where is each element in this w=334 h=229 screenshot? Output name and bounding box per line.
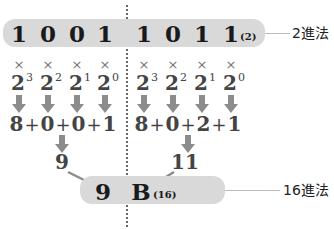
hex-label-connector <box>225 190 280 191</box>
hex-digit: B <box>131 180 150 203</box>
hex-label: 16進法 <box>283 183 329 197</box>
hex-digit: 9 <box>95 180 111 203</box>
hex-base-subscript: (16) <box>153 190 176 200</box>
